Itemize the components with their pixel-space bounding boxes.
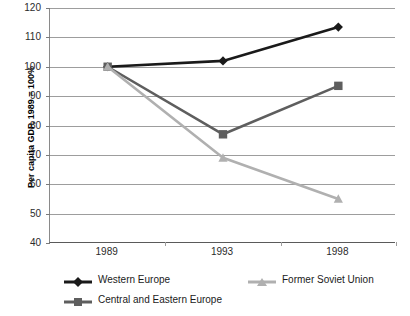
legend-swatch-triangle-icon xyxy=(248,274,276,286)
y-axis-tick-label: 80 xyxy=(0,121,41,131)
legend-item-former-soviet-union[interactable]: Former Soviet Union xyxy=(248,274,374,286)
gdp-line-chart: Per capita GDP, 1989 = 100% 405060708090… xyxy=(0,0,410,316)
y-axis-tick-label: 100 xyxy=(0,62,41,72)
x-axis-tick-label: 1989 xyxy=(77,247,137,257)
series-line-central-and-eastern-europe xyxy=(108,67,339,135)
x-axis-tick xyxy=(396,242,397,246)
legend-swatch-diamond-icon xyxy=(64,274,92,286)
series-layer xyxy=(50,8,396,243)
legend-item-central-and-eastern-europe[interactable]: Central and Eastern Europe xyxy=(64,294,222,306)
y-axis-tick-label: 90 xyxy=(0,91,41,101)
plot-area: 405060708090100110120 xyxy=(49,8,395,243)
series-central-and-eastern-europe xyxy=(103,63,342,139)
y-axis-tick-label: 50 xyxy=(0,209,41,219)
data-point-central-and-eastern-europe-1998 xyxy=(334,82,342,90)
series-western-europe xyxy=(103,22,343,71)
legend-label-former-soviet-union: Former Soviet Union xyxy=(282,275,374,285)
data-point-western-europe-1993 xyxy=(218,56,227,65)
legend-swatch-square-icon xyxy=(64,294,92,306)
legend-item-western-europe[interactable]: Western Europe xyxy=(64,274,170,286)
chart-legend: Western Europe Central and Eastern Europ… xyxy=(0,272,410,316)
legend-label-central-and-eastern-europe: Central and Eastern Europe xyxy=(98,295,222,305)
y-axis-tick-label: 40 xyxy=(0,238,41,248)
y-axis-tick-label: 70 xyxy=(0,150,41,160)
data-point-western-europe-1998 xyxy=(334,22,343,31)
y-axis-tick-label: 60 xyxy=(0,179,41,189)
x-axis-tick-label: 1993 xyxy=(192,247,252,257)
y-axis-tick-label: 120 xyxy=(0,3,41,13)
y-axis-tick-label: 110 xyxy=(0,32,41,42)
legend-label-western-europe: Western Europe xyxy=(98,275,170,285)
data-point-central-and-eastern-europe-1993 xyxy=(219,130,227,138)
x-axis-tick-label: 1998 xyxy=(307,247,367,257)
y-axis-tick xyxy=(46,243,50,244)
